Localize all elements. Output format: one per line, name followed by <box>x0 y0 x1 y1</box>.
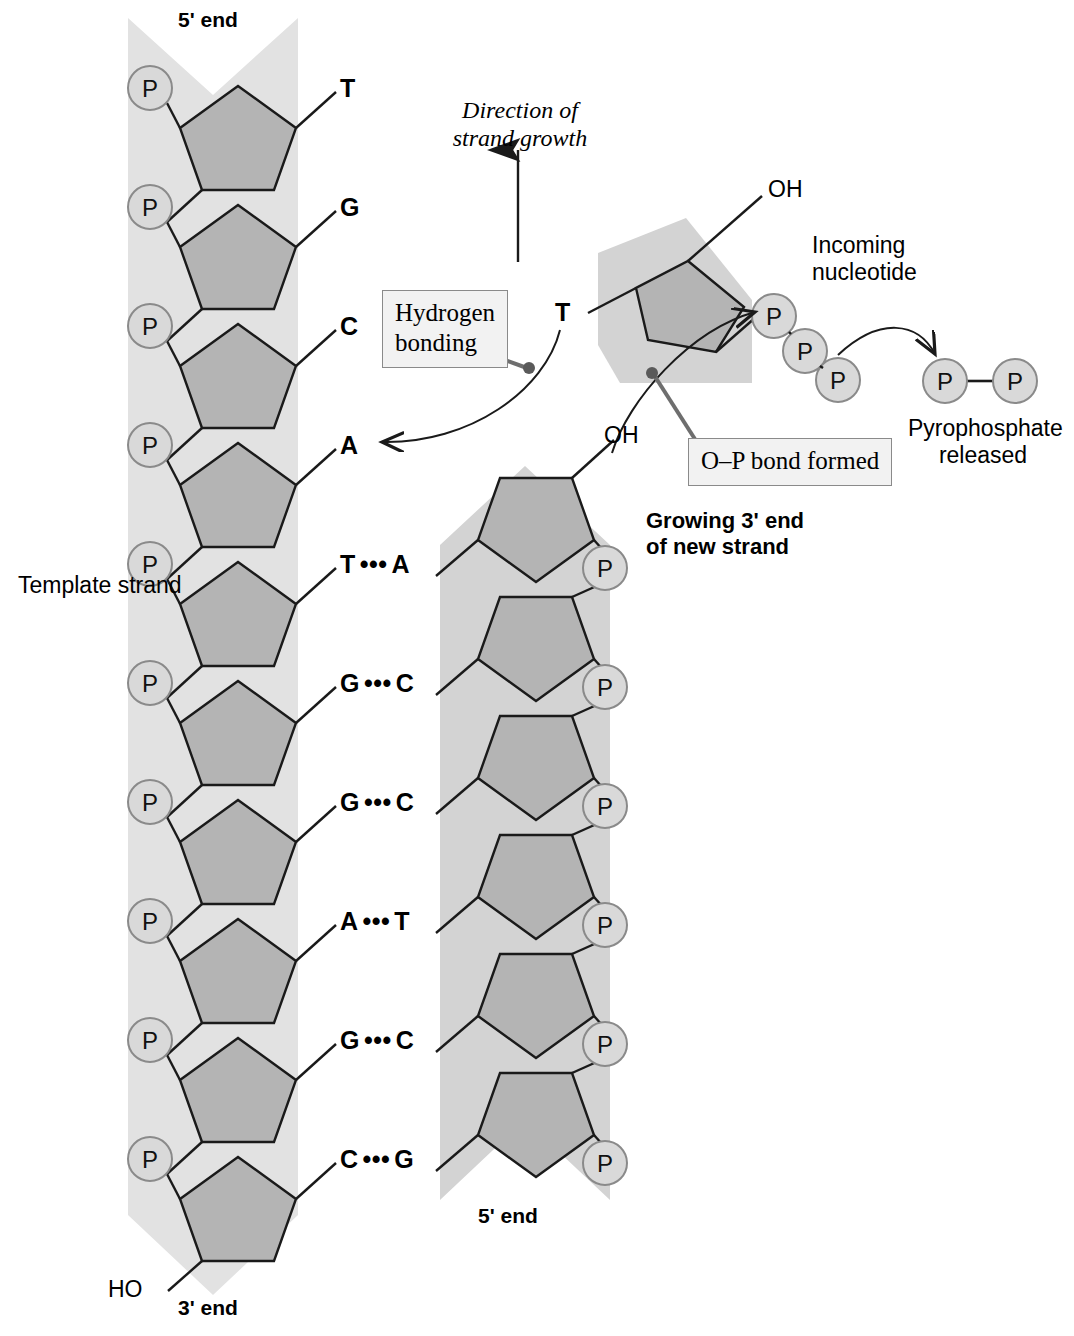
hydrogen-bonding-line1: Hydrogen <box>395 299 495 326</box>
template-5prime-end-label: 5' end <box>178 8 238 33</box>
growing-3prime-end-label: Growing 3' endof new strand <box>646 508 804 560</box>
base-pair-1: G•••C <box>340 669 414 699</box>
incoming-nucleotide-line2: nucleotide <box>812 259 917 285</box>
strand-growth-line2: strand growth <box>453 125 587 151</box>
base-pair-3-template: A <box>340 907 359 935</box>
svg-text:P: P <box>142 75 158 102</box>
svg-text:P: P <box>937 368 953 395</box>
incoming-nucleotide-label: Incomingnucleotide <box>812 232 917 286</box>
base-pair-4-new: C <box>396 1026 415 1054</box>
incoming-nucleotide-base: T <box>555 298 571 328</box>
svg-text:P: P <box>142 313 158 340</box>
base-pair-1-new: C <box>396 669 415 697</box>
template-base-1: G <box>340 193 360 223</box>
base-pair-3-new: T <box>394 907 410 935</box>
base-pair-2: G•••C <box>340 788 414 818</box>
template-base-2: C <box>340 312 359 342</box>
base-pair-4-template: G <box>340 1026 360 1054</box>
incoming-phosphate-group: P P P <box>752 294 860 402</box>
svg-text:P: P <box>142 789 158 816</box>
base-pair-1-template: G <box>340 669 360 697</box>
base-pair-5-template: C <box>340 1145 359 1173</box>
svg-text:P: P <box>597 555 613 582</box>
template-strand-label: Template strand <box>18 572 182 599</box>
hydrogen-bonding-line2: bonding <box>395 329 477 356</box>
svg-text:P: P <box>797 338 813 365</box>
template-base-0: T <box>340 74 356 104</box>
base-pair-0: T•••A <box>340 550 410 580</box>
base-pair-4-bond: ••• <box>360 1026 396 1054</box>
base-pair-3: A•••T <box>340 907 410 937</box>
svg-text:P: P <box>142 432 158 459</box>
svg-text:P: P <box>597 793 613 820</box>
base-pair-4: G•••C <box>340 1026 414 1056</box>
base-pair-3-bond: ••• <box>359 907 395 935</box>
dna-replication-figure: P P P P P P P P P P <box>0 0 1074 1336</box>
svg-text:P: P <box>597 1150 613 1177</box>
op-bond-callout: O–P bond formed <box>688 438 892 486</box>
template-3prime-end-label: 3' end <box>178 1296 238 1321</box>
diagram-canvas: P P P P P P P P P P <box>0 0 1074 1336</box>
svg-text:P: P <box>766 303 782 330</box>
svg-text:P: P <box>142 1027 158 1054</box>
strand-growth-line1: Direction of <box>462 97 578 123</box>
incoming-hydroxyl-label: OH <box>768 176 803 203</box>
base-pair-5-new: G <box>394 1145 414 1173</box>
strand-growth-label: Direction ofstrand growth <box>430 96 610 153</box>
svg-text:P: P <box>830 367 846 394</box>
svg-text:P: P <box>142 1146 158 1173</box>
pyrophosphate-line1: Pyrophosphate <box>908 415 1063 441</box>
new-strand-hydroxyl-label: OH <box>604 422 639 449</box>
base-pair-2-bond: ••• <box>360 788 396 816</box>
base-pair-2-new: C <box>396 788 415 816</box>
base-pair-0-new: A <box>392 550 411 578</box>
base-pair-0-template: T <box>340 550 356 578</box>
svg-text:P: P <box>142 194 158 221</box>
base-pair-0-bond: ••• <box>356 550 392 578</box>
base-pair-5: C•••G <box>340 1145 414 1175</box>
svg-text:P: P <box>1007 368 1023 395</box>
base-pair-1-bond: ••• <box>360 669 396 697</box>
template-base-3: A <box>340 431 359 461</box>
pyrophosphate-label: Pyrophosphatereleased <box>908 415 1058 469</box>
pyrophosphate-line2: released <box>939 442 1027 468</box>
template-hydroxyl-label: HO <box>108 1276 143 1303</box>
growing-3prime-end-line1: Growing 3' end <box>646 508 804 533</box>
pyrophosphate-group: P P <box>923 359 1037 403</box>
svg-text:P: P <box>142 908 158 935</box>
svg-text:P: P <box>142 670 158 697</box>
template-base-bonds <box>296 92 336 1199</box>
pyrophosphate-release-arrow <box>838 328 935 355</box>
base-pair-5-bond: ••• <box>359 1145 395 1173</box>
incoming-nucleotide-line1: Incoming <box>812 232 905 258</box>
svg-text:P: P <box>597 1031 613 1058</box>
growing-3prime-end-line2: of new strand <box>646 534 789 559</box>
svg-text:P: P <box>597 674 613 701</box>
new-strand-5prime-end-label: 5' end <box>478 1204 538 1229</box>
hydrogen-bonding-callout: Hydrogenbonding <box>382 290 508 368</box>
svg-text:P: P <box>597 912 613 939</box>
template-strand-label-text: Template strand <box>18 572 182 598</box>
base-pair-2-template: G <box>340 788 360 816</box>
